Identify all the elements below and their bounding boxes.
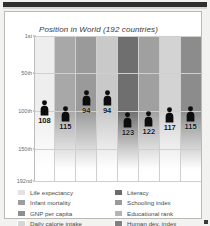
rank-marker: 115	[55, 106, 76, 131]
legend-column-right: LiteracySchooling indexEducational rankH…	[102, 188, 199, 226]
legend-item[interactable]: Infant mortality	[17, 198, 102, 207]
legend-label: Human dev. index	[127, 220, 176, 226]
band-fill	[139, 36, 159, 181]
rank-marker: 94	[76, 90, 97, 115]
rank-value-label: 94	[76, 106, 97, 115]
y-axis: 1st50th100th150th192nd	[7, 36, 32, 181]
legend-label: Schooling index	[127, 199, 171, 206]
y-axis-tick-label: 192nd	[17, 178, 32, 184]
person-icon	[39, 100, 49, 116]
plot-area: 1081159494123122117115	[34, 36, 201, 181]
y-axis-tick-label: 100th	[18, 108, 32, 114]
person-icon	[81, 90, 91, 106]
legend-label: Infant mortality	[30, 199, 71, 206]
gridline	[34, 36, 201, 37]
legend-swatch	[17, 199, 26, 206]
y-axis-tick-label: 50th	[21, 70, 32, 76]
gridline	[34, 181, 201, 182]
rank-value-label: 123	[118, 128, 139, 137]
legend-swatch	[17, 220, 26, 226]
legend-swatch	[17, 189, 26, 196]
top-banner-shadow	[3, 7, 207, 9]
rank-marker: 108	[34, 100, 55, 125]
person-icon	[102, 90, 112, 106]
corner-mark	[204, 220, 208, 224]
y-axis-tick-label: 1st	[25, 33, 32, 39]
gridline	[34, 73, 201, 74]
legend-label: Literacy	[127, 189, 149, 196]
legend-swatch	[114, 189, 123, 196]
legend-item[interactable]: Human dev. index	[114, 219, 199, 226]
rank-marker: 117	[159, 107, 180, 132]
rank-value-label: 117	[159, 123, 180, 132]
rank-marker: 122	[138, 111, 159, 136]
person-icon	[123, 112, 133, 128]
legend-item[interactable]: GNP per capita	[17, 209, 102, 218]
legend-swatch	[114, 199, 123, 206]
rank-marker: 115	[180, 106, 201, 131]
rank-value-label: 108	[34, 116, 55, 125]
legend-label: Daily calorie intake	[30, 220, 82, 226]
legend-item[interactable]: Literacy	[114, 188, 199, 197]
legend-label: Educational rank	[127, 210, 173, 217]
legend-swatch	[17, 210, 26, 217]
person-icon	[165, 107, 175, 123]
person-icon	[186, 106, 196, 122]
person-icon	[60, 106, 70, 122]
chart-card: Position in World (192 countries) 1st50t…	[4, 11, 202, 219]
legend: Life expectancyInfant mortalityGNP per c…	[17, 188, 199, 226]
chart-page: Position in World (192 countries) 1st50t…	[0, 0, 210, 226]
legend-item[interactable]: Life expectancy	[17, 188, 102, 197]
rank-value-label: 115	[55, 122, 76, 131]
legend-column-left: Life expectancyInfant mortalityGNP per c…	[17, 188, 102, 226]
legend-item[interactable]: Daily calorie intake	[17, 219, 102, 226]
column-band	[118, 36, 139, 181]
rank-value-label: 94	[97, 106, 118, 115]
legend-swatch	[114, 220, 123, 226]
rank-value-label: 122	[138, 127, 159, 136]
column-band	[139, 36, 160, 181]
gridline	[34, 149, 201, 150]
y-axis-tick-label: 150th	[18, 146, 32, 152]
legend-item[interactable]: Schooling index	[114, 198, 199, 207]
band-fill	[118, 36, 138, 181]
legend-swatch	[114, 210, 123, 217]
person-icon	[144, 111, 154, 127]
rank-value-label: 115	[180, 122, 201, 131]
legend-item[interactable]: Educational rank	[114, 209, 199, 218]
rank-marker: 123	[118, 112, 139, 137]
chart-title: Position in World (192 countries)	[39, 25, 158, 34]
legend-label: GNP per capita	[30, 210, 72, 217]
legend-label: Life expectancy	[30, 189, 73, 196]
rank-marker: 94	[97, 90, 118, 115]
